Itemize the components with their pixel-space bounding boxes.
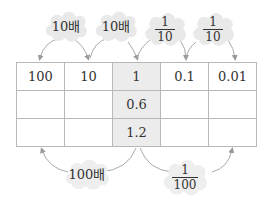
- table-row: 1.2: [17, 119, 257, 147]
- table-cell-empty: [209, 91, 257, 119]
- table-cell: 10: [65, 63, 113, 91]
- cloud-label-div100: 1100: [160, 156, 210, 198]
- table-cell-highlight: 1: [113, 63, 161, 91]
- table-cell-empty: [17, 119, 65, 147]
- table-cell-empty: [161, 119, 209, 147]
- table-cell-empty: [65, 91, 113, 119]
- arrow-10x-2b: [128, 42, 137, 58]
- table-cell-highlight: 0.6: [113, 91, 161, 119]
- cloud-label-10x-1: 10배: [42, 8, 90, 44]
- fraction-label: 110: [155, 15, 174, 43]
- label-text: 100배: [69, 168, 106, 181]
- table-cell-empty: [161, 91, 209, 119]
- label-text: 10배: [52, 20, 81, 33]
- place-value-table: 100 10 1 0.1 0.01 0.6 1.2: [16, 62, 257, 147]
- fraction-label: 1100: [172, 163, 199, 191]
- table-cell: 100: [17, 63, 65, 91]
- cloud-label-div10-2: 110: [190, 10, 236, 48]
- cloud-label-100x: 100배: [62, 156, 112, 192]
- table-cell: 0.01: [209, 63, 257, 91]
- cloud-label-10x-2: 10배: [92, 8, 140, 44]
- table-cell-highlight: 1.2: [113, 119, 161, 147]
- cloud-label-div10-1: 110: [142, 10, 188, 48]
- table-row: 100 10 1 0.1 0.01: [17, 63, 257, 91]
- table-cell-empty: [209, 119, 257, 147]
- table-cell-empty: [65, 119, 113, 147]
- table-cell: 0.1: [161, 63, 209, 91]
- table-cell-empty: [17, 91, 65, 119]
- arrow-div100-b: [212, 150, 232, 172]
- fraction-label: 110: [203, 15, 222, 43]
- label-text: 10배: [102, 20, 131, 33]
- table-row: 0.6: [17, 91, 257, 119]
